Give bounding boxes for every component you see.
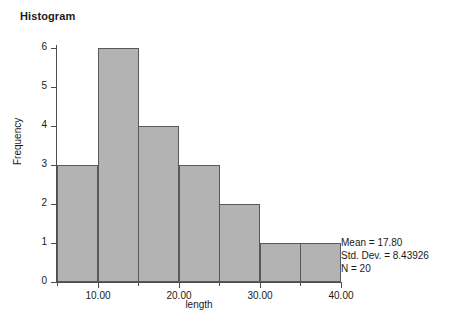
- y-tick-label: 1: [41, 236, 47, 247]
- y-tick: 5: [51, 87, 56, 88]
- histogram-bar: [57, 165, 98, 282]
- y-axis-title: Frequency: [12, 118, 23, 165]
- stat-std-dev: Std. Dev. = 8.43926: [341, 249, 429, 262]
- x-tick-minor: [57, 283, 58, 288]
- x-tick-minor: [300, 283, 301, 288]
- x-tick: 20.00: [179, 283, 180, 288]
- y-tick-label: 2: [41, 197, 47, 208]
- x-tick-minor: [219, 283, 220, 288]
- histogram-bar: [219, 204, 260, 282]
- y-tick-label: 6: [41, 41, 47, 52]
- x-tick-mark: [98, 283, 99, 288]
- x-tick-minor: [138, 283, 139, 288]
- histogram-bar: [300, 243, 341, 282]
- y-tick-mark: [51, 87, 56, 88]
- histogram-chart-canvas: Histogram Frequency 6543210 10.0020.0030…: [0, 0, 456, 332]
- x-tick-mark: [260, 283, 261, 288]
- stat-n: N = 20: [341, 262, 429, 275]
- x-tick-mark: [57, 283, 58, 286]
- x-tick: 40.00: [341, 283, 342, 288]
- stat-mean: Mean = 17.80: [341, 236, 429, 249]
- histogram-bar: [179, 165, 220, 282]
- y-tick: 1: [51, 243, 56, 244]
- y-tick-label: 4: [41, 119, 47, 130]
- x-tick-mark: [219, 283, 220, 286]
- x-tick-mark: [300, 283, 301, 286]
- x-axis-title: length: [57, 299, 341, 310]
- histogram-bar: [138, 126, 179, 282]
- x-tick-mark: [138, 283, 139, 286]
- y-tick: 4: [51, 126, 56, 127]
- y-tick: 2: [51, 204, 56, 205]
- y-tick-mark: [51, 126, 56, 127]
- plot-area: [57, 48, 341, 282]
- x-tick-mark: [179, 283, 180, 288]
- statistics-annotation: Mean = 17.80 Std. Dev. = 8.43926 N = 20: [341, 236, 429, 275]
- y-tick-mark: [51, 165, 56, 166]
- y-tick-mark: [51, 48, 56, 49]
- histogram-bar: [98, 48, 139, 282]
- x-tick-mark: [341, 283, 342, 288]
- y-tick: 3: [51, 165, 56, 166]
- y-tick-mark: [51, 204, 56, 205]
- x-tick: 30.00: [260, 283, 261, 288]
- y-tick: 0: [51, 282, 56, 283]
- y-tick: 6: [51, 48, 56, 49]
- y-tick-label: 5: [41, 80, 47, 91]
- y-tick-label: 0: [41, 275, 47, 286]
- y-tick-label: 3: [41, 158, 47, 169]
- histogram-bar: [260, 243, 301, 282]
- y-tick-mark: [51, 243, 56, 244]
- x-tick: 10.00: [98, 283, 99, 288]
- y-tick-mark: [51, 282, 56, 283]
- chart-title: Histogram: [20, 10, 75, 22]
